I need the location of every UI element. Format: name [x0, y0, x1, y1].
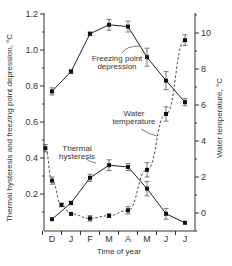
data-point-marker — [126, 208, 130, 212]
data-point-marker — [69, 201, 73, 205]
data-point-marker — [164, 212, 168, 216]
x-tick-label: M — [105, 234, 113, 244]
left-tick-label: 0.6 — [25, 117, 38, 127]
annotations: Freezing pointdepressionWatertemperature… — [59, 54, 156, 161]
data-point-marker — [164, 112, 168, 116]
data-point-marker — [183, 38, 187, 42]
x-axis-title: Time of year — [97, 247, 141, 256]
right-tick-label: 4 — [201, 136, 206, 146]
right-tick-label: 10 — [201, 28, 211, 38]
right-axis-title: Water temperature, °C — [215, 78, 224, 158]
x-tick-label: J — [69, 234, 74, 244]
annotation-label: Thermalhysteresis — [59, 144, 95, 161]
left-axis-title: Thermal hysteresis and freezing point de… — [5, 34, 14, 222]
data-point-marker — [107, 163, 111, 167]
data-point-marker — [69, 70, 73, 74]
data-point-marker — [183, 221, 187, 225]
right-axis-ticks: 1086420 — [195, 15, 211, 231]
left-axis-ticks: 1.21.00.80.60.40.2 — [25, 9, 44, 212]
data-point-marker — [88, 32, 92, 36]
left-tick-label: 0.4 — [25, 153, 38, 163]
right-tick-label: 2 — [201, 172, 206, 182]
x-axis-ticks: DJFMAMJJ — [43, 231, 188, 244]
left-tick-label: 1.0 — [25, 45, 38, 55]
x-tick-label: J — [183, 234, 188, 244]
fpd-leader-line — [122, 46, 140, 53]
data-point-marker — [107, 214, 111, 218]
data-point-marker — [183, 100, 187, 104]
x-tick-label: F — [87, 234, 93, 244]
data-point-marker — [88, 216, 92, 220]
data-point-marker — [50, 179, 54, 183]
data-point-marker — [145, 168, 149, 172]
data-point-marker — [145, 55, 149, 59]
data-point-marker — [69, 212, 73, 216]
data-point-marker — [50, 217, 54, 221]
x-tick-label: A — [125, 234, 131, 244]
left-tick-label: 0.8 — [25, 81, 38, 91]
water-leader-line — [141, 129, 157, 136]
data-point-marker — [126, 25, 130, 29]
left-tick-label: 0.2 — [25, 189, 38, 199]
data-point-marker — [126, 165, 130, 169]
data-point-marker — [50, 89, 54, 93]
x-tick-label: D — [49, 234, 56, 244]
right-tick-label: 6 — [201, 100, 206, 110]
x-tick-label: J — [164, 234, 169, 244]
annotation-label: Watertemperature — [112, 109, 156, 126]
right-tick-label: 0 — [201, 208, 206, 218]
data-point-marker — [60, 203, 64, 207]
data-point-marker — [107, 23, 111, 27]
data-point-marker — [88, 176, 92, 180]
right-tick-label: 8 — [201, 64, 206, 74]
data-point-marker — [43, 146, 47, 150]
x-tick-label: M — [143, 234, 151, 244]
chart-figure: 1.21.00.80.60.40.2 1086420 DJFMAMJJ Time… — [0, 0, 232, 266]
data-point-marker — [164, 79, 168, 83]
data-point-marker — [145, 187, 149, 191]
annotation-label: Freezing pointdepression — [92, 54, 143, 71]
left-tick-label: 1.2 — [25, 9, 38, 19]
